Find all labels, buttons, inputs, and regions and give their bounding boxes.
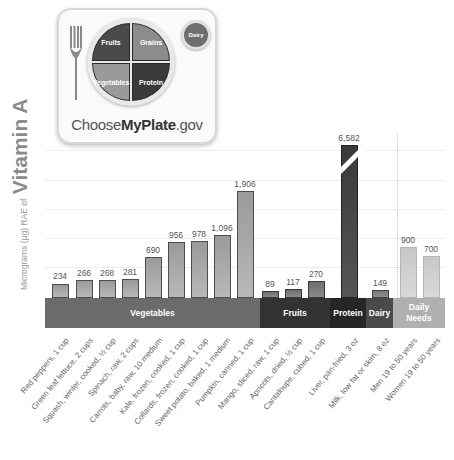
bar-value: 6,582 — [329, 133, 369, 143]
group-vegetables: Vegetables — [45, 298, 260, 328]
dairy-label: Dairy — [188, 32, 203, 38]
group-fruits: Fruits — [260, 298, 330, 328]
myplate-logo: Fruits Grains Vegetables Protein Dairy C… — [57, 8, 217, 144]
plate-grains: Grains — [132, 23, 170, 61]
bar-value: 270 — [296, 269, 336, 279]
logo-text-prefix: Choose — [71, 116, 121, 133]
bar-red-peppers — [52, 284, 69, 298]
dairy-cup-icon: Dairy — [181, 20, 211, 50]
bar-spinach — [122, 279, 139, 298]
bar-carrots — [145, 257, 162, 298]
bar-kale — [168, 242, 185, 298]
plate-protein-label: Protein — [139, 79, 163, 86]
plate-fruits-label: Fruits — [101, 39, 120, 46]
bar-sweet-potato — [214, 235, 231, 298]
bar-milk — [372, 290, 389, 298]
group-label: Daily Needs — [403, 302, 435, 324]
bar-women — [423, 256, 440, 298]
group-protein: Protein — [330, 298, 366, 328]
plate-protein: Protein — [132, 63, 170, 101]
bar-apricots — [285, 289, 302, 298]
group-label: Dairy — [369, 308, 390, 319]
plate-icon: Fruits Grains Vegetables Protein — [87, 18, 175, 106]
plate-vegetables: Vegetables — [92, 63, 130, 101]
daily-needs-divider — [397, 135, 398, 300]
y-axis-main-title: Vitamin A — [8, 99, 31, 195]
bar-collards — [191, 241, 208, 298]
plate-fruits: Fruits — [92, 23, 130, 61]
group-dairy: Dairy — [366, 298, 393, 328]
bar-value: 690 — [133, 245, 173, 255]
y-axis-subtitle: Micrograms (µg) RAE of — [19, 199, 29, 290]
bar-green-leaf-lettuce — [76, 280, 93, 298]
plate-vegetables-label: Vegetables — [93, 79, 130, 86]
bar-squash — [99, 280, 116, 298]
logo-text: ChooseMyPlate.gov — [59, 116, 215, 133]
group-daily-needs: Daily Needs — [393, 298, 445, 328]
group-label: Vegetables — [130, 308, 174, 319]
bar-mango — [262, 291, 279, 298]
gridline — [45, 150, 445, 151]
bar-value: 1,096 — [202, 223, 242, 233]
bar-men — [400, 247, 417, 298]
bar-cantaloupe — [308, 281, 325, 298]
logo-text-suffix: .gov — [176, 116, 203, 133]
bar-value: 149 — [360, 278, 400, 288]
group-label: Protein — [333, 308, 362, 319]
logo-text-bold: MyPlate — [121, 116, 176, 133]
group-label: Fruits — [283, 308, 307, 319]
fork-icon — [69, 26, 83, 100]
bar-value: 1,906 — [225, 179, 265, 189]
plate-grains-label: Grains — [140, 39, 162, 46]
bar-value: 281 — [110, 267, 150, 277]
y-axis-title: Micrograms (µg) RAE of Vitamin A — [8, 99, 32, 291]
bar-value: 700 — [411, 244, 451, 254]
